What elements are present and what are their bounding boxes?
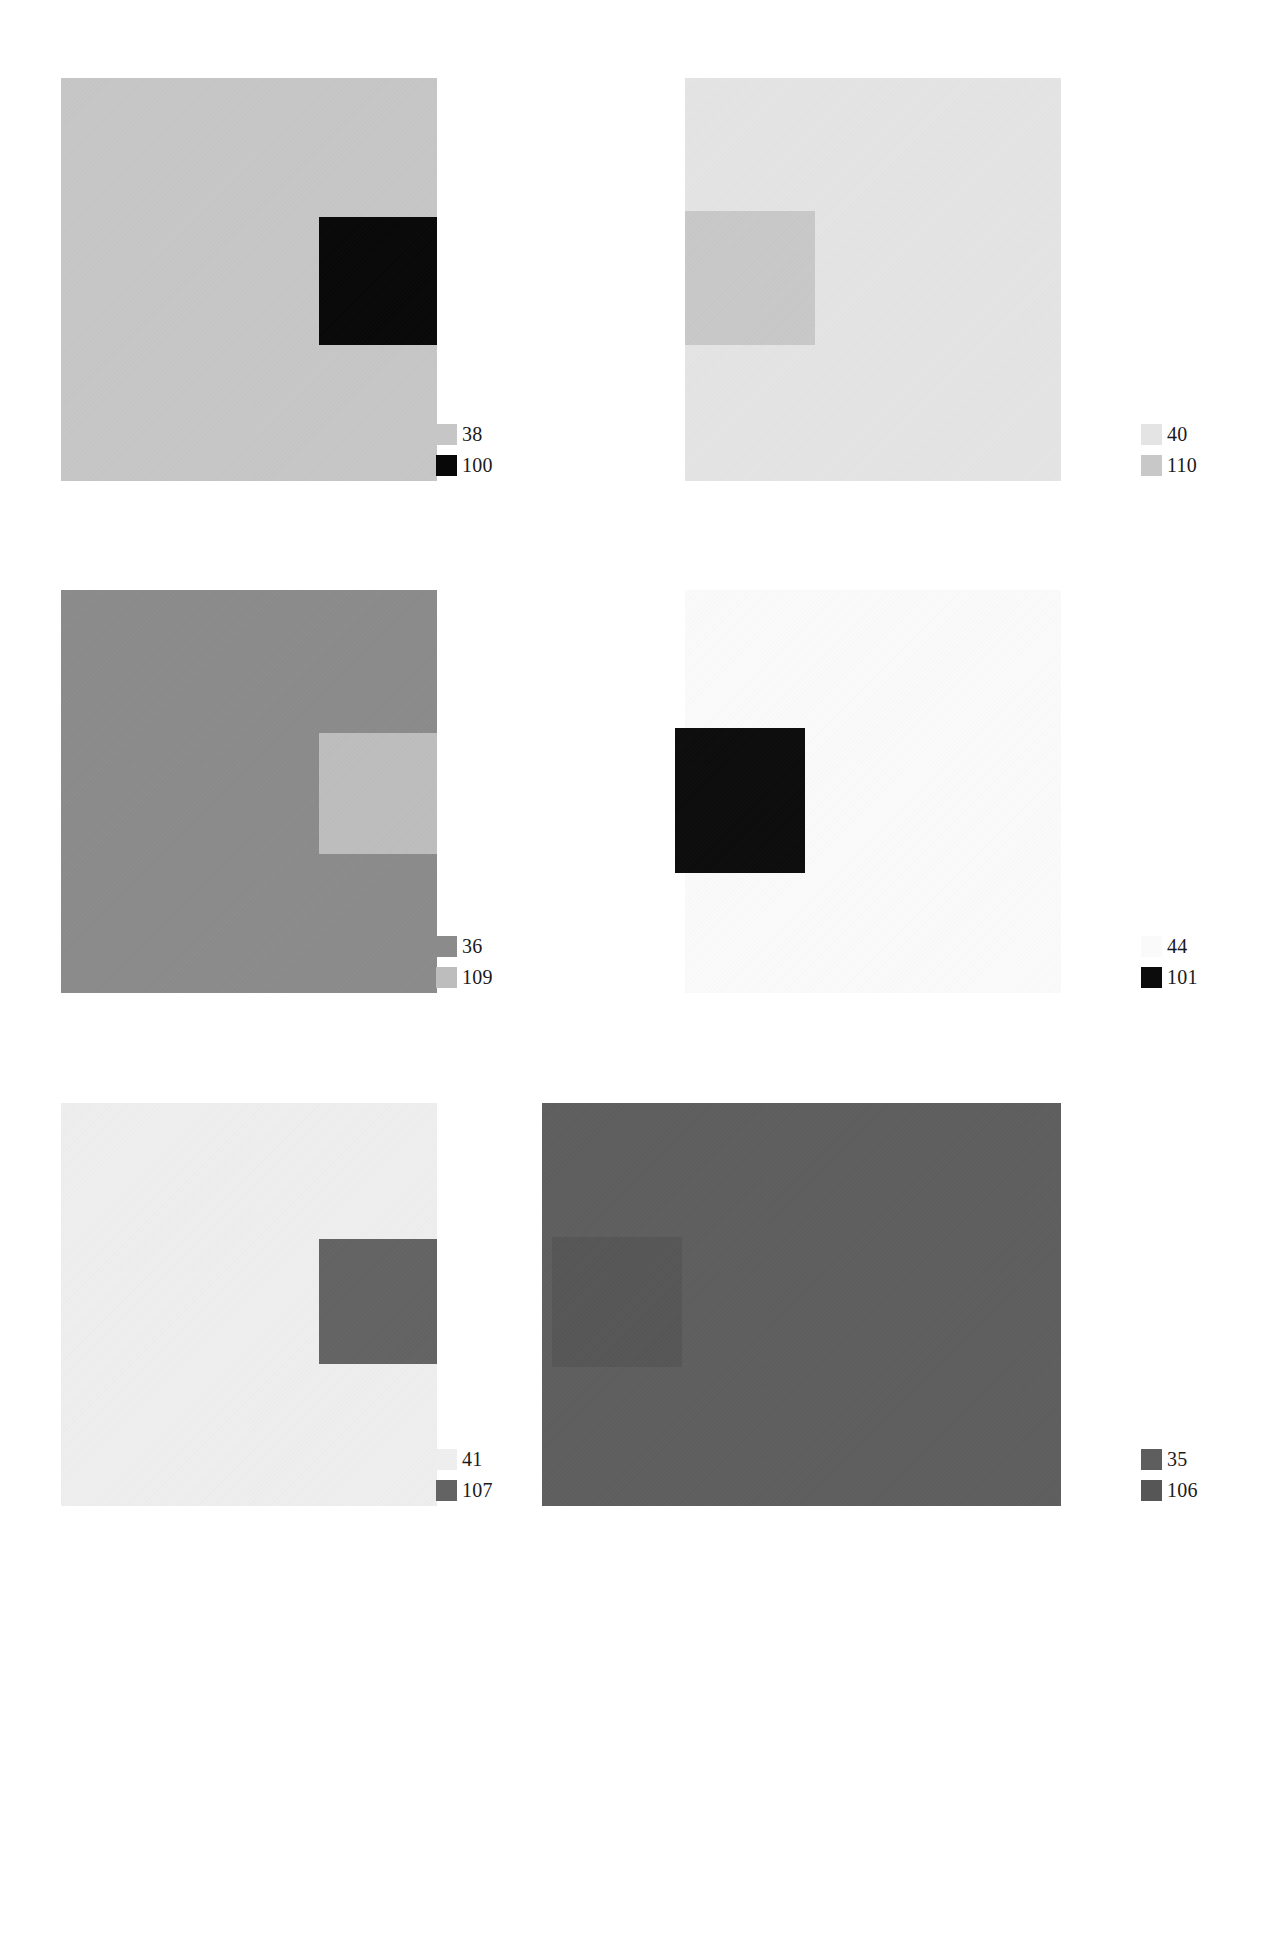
plate-5-legend: 41 107 <box>436 1448 493 1501</box>
legend-row-patch: 109 <box>436 966 493 988</box>
plate-4-field-swatch <box>1141 936 1162 957</box>
plate-2-patch-swatch <box>1141 455 1162 476</box>
plate-3-field-label: 36 <box>462 935 482 957</box>
plate-5 <box>61 1103 437 1506</box>
plate-6-field-label: 35 <box>1167 1448 1187 1470</box>
plate-2-field-swatch <box>1141 424 1162 445</box>
plate-1 <box>61 78 437 481</box>
plate-2-patch <box>685 211 815 345</box>
plate-4-field-label: 44 <box>1167 935 1187 957</box>
legend-row-field: 36 <box>436 935 493 957</box>
legend-row-patch: 101 <box>1141 966 1198 988</box>
plate-5-patch <box>319 1239 437 1364</box>
plate-4-patch <box>675 728 805 873</box>
plate-2 <box>685 78 1061 481</box>
plate-2-field-label: 40 <box>1167 423 1187 445</box>
legend-row-field: 35 <box>1141 1448 1198 1470</box>
plate-1-field-swatch <box>436 424 457 445</box>
legend-row-patch: 100 <box>436 454 493 476</box>
plate-1-field-label: 38 <box>462 423 482 445</box>
legend-row-field: 40 <box>1141 423 1197 445</box>
plate-3-patch <box>319 733 437 854</box>
plate-1-patch-label: 100 <box>462 454 493 476</box>
plate-6 <box>542 1103 1061 1506</box>
legend-row-patch: 107 <box>436 1479 493 1501</box>
plate-5-patch-swatch <box>436 1480 457 1501</box>
plate-3-legend: 36 109 <box>436 935 493 988</box>
legend-row-patch: 106 <box>1141 1479 1198 1501</box>
plate-5-patch-label: 107 <box>462 1479 493 1501</box>
plate-2-patch-label: 110 <box>1167 454 1197 476</box>
plate-5-field-swatch <box>436 1449 457 1470</box>
legend-row-field: 44 <box>1141 935 1198 957</box>
plate-1-patch <box>319 217 437 345</box>
page-root: 38 100 40 110 36 109 <box>0 0 1276 1933</box>
plate-2-legend: 40 110 <box>1141 423 1197 476</box>
plate-3-patch-swatch <box>436 967 457 988</box>
plate-6-legend: 35 106 <box>1141 1448 1198 1501</box>
plate-6-patch <box>552 1237 682 1367</box>
plate-6-patch-swatch <box>1141 1480 1162 1501</box>
legend-row-field: 41 <box>436 1448 493 1470</box>
plate-1-patch-swatch <box>436 455 457 476</box>
plate-3-field-swatch <box>436 936 457 957</box>
legend-row-field: 38 <box>436 423 493 445</box>
plate-3 <box>61 590 437 993</box>
plate-4-patch-swatch <box>1141 967 1162 988</box>
legend-row-patch: 110 <box>1141 454 1197 476</box>
plate-6-patch-label: 106 <box>1167 1479 1198 1501</box>
plate-4-legend: 44 101 <box>1141 935 1198 988</box>
plate-3-patch-label: 109 <box>462 966 493 988</box>
plate-4-patch-label: 101 <box>1167 966 1198 988</box>
plate-6-field-swatch <box>1141 1449 1162 1470</box>
plate-1-legend: 38 100 <box>436 423 493 476</box>
plate-4 <box>685 590 1061 993</box>
plate-5-field-label: 41 <box>462 1448 482 1470</box>
